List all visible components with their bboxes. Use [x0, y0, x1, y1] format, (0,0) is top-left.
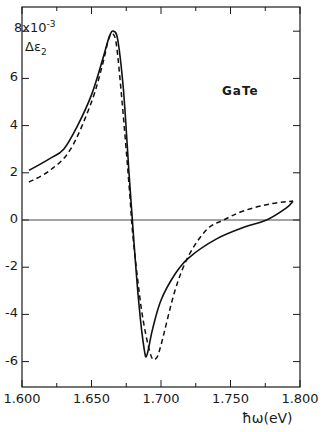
x-tick-label: 1.650	[72, 391, 112, 406]
x-tick-label: 1.700	[141, 391, 181, 406]
y-tick-label: -4	[2, 305, 18, 320]
y-tick-label: 4	[2, 117, 18, 132]
x-tick-label: 1.750	[211, 391, 251, 406]
y-axis-label: Δε2	[25, 39, 47, 57]
y-tick-label: 2	[2, 164, 18, 179]
y-tick-label: -6	[2, 353, 18, 368]
y-tick-label: 0	[2, 211, 18, 226]
y-axis-multiplier: 8x10-3	[14, 19, 56, 35]
y-multiplier-text: 8x10	[14, 20, 47, 35]
axis-ticks	[22, 7, 300, 387]
y-label-text: Δε	[25, 39, 41, 54]
x-axis-label: ħω(eV)	[242, 410, 293, 426]
y-label-subscript: 2	[41, 47, 47, 57]
chart-plot-area	[0, 0, 324, 432]
series-solid-line	[29, 31, 293, 357]
series-dashed-line	[29, 33, 293, 359]
x-tick-label: 1.800	[280, 391, 320, 406]
y-multiplier-exponent: -3	[47, 19, 56, 29]
x-tick-label: 1.600	[2, 391, 42, 406]
y-tick-label: -2	[2, 258, 18, 273]
plot-frame	[22, 7, 300, 387]
y-tick-label: 6	[2, 69, 18, 84]
annotation-gate: GaTe	[222, 84, 259, 98]
